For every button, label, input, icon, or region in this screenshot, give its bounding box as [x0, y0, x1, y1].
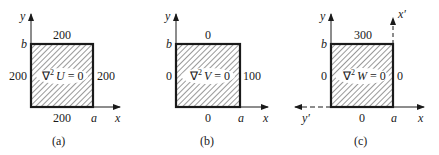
- y-axis-label: y: [319, 9, 326, 23]
- corner-b-label: b: [21, 37, 27, 51]
- boundary-top: 0: [205, 28, 211, 42]
- panel-c: y b a x x′ y′ 300 0 0 0 ∇2W = 0 (c): [295, 7, 424, 148]
- boundary-left: 0: [321, 69, 327, 83]
- laplace-equation: ∇2W = 0: [342, 68, 386, 83]
- boundary-left: 0: [166, 69, 172, 83]
- boundary-right: 200: [97, 69, 115, 83]
- x-axis-label: x: [114, 111, 121, 125]
- x-prime-label: x′: [397, 7, 406, 21]
- boundary-bottom: 200: [53, 111, 71, 125]
- panel-a: y b a x 200 200 200 200 ∇2U = 0 (a): [9, 9, 121, 148]
- boundary-left: 200: [9, 69, 27, 83]
- corner-b-label: b: [166, 37, 172, 51]
- boundary-top: 300: [354, 28, 372, 42]
- x-axis-label: x: [262, 111, 269, 125]
- boundary-top: 200: [53, 28, 71, 42]
- y-prime-label: y′: [301, 111, 310, 125]
- caption: (c): [354, 134, 367, 148]
- corner-a-label: a: [391, 111, 397, 125]
- corner-a-label: a: [91, 111, 97, 125]
- caption: (a): [52, 134, 65, 148]
- boundary-right: 0: [397, 69, 403, 83]
- laplace-boundary-diagram: y b a x 200 200 200 200 ∇2U = 0 (a) y b …: [0, 0, 439, 155]
- x-axis-label: x: [417, 111, 424, 125]
- boundary-bottom: 0: [359, 111, 365, 125]
- boundary-bottom: 0: [205, 111, 211, 125]
- corner-a-label: a: [238, 111, 244, 125]
- laplace-equation: ∇2U = 0: [41, 68, 83, 83]
- boundary-right: 100: [243, 69, 261, 83]
- y-axis-label: y: [19, 9, 26, 23]
- corner-b-label: b: [321, 37, 327, 51]
- y-axis-label: y: [164, 9, 171, 23]
- laplace-equation: ∇2V = 0: [189, 68, 230, 83]
- caption: (b): [200, 134, 214, 148]
- panel-b: y b a x 0 0 100 0 ∇2V = 0 (b): [164, 9, 269, 148]
